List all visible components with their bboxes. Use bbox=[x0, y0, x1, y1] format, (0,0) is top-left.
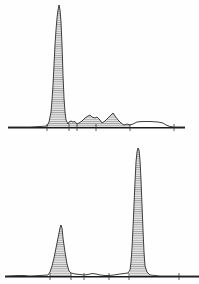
top-trace-panel bbox=[8, 5, 185, 131]
scan-traces-plot bbox=[0, 0, 199, 284]
bottom-trace-panel bbox=[5, 148, 199, 280]
densitometry-figure bbox=[0, 0, 199, 284]
scan-trace bbox=[8, 5, 185, 127]
scan-trace bbox=[5, 148, 199, 276]
peak-area bbox=[47, 5, 69, 127]
